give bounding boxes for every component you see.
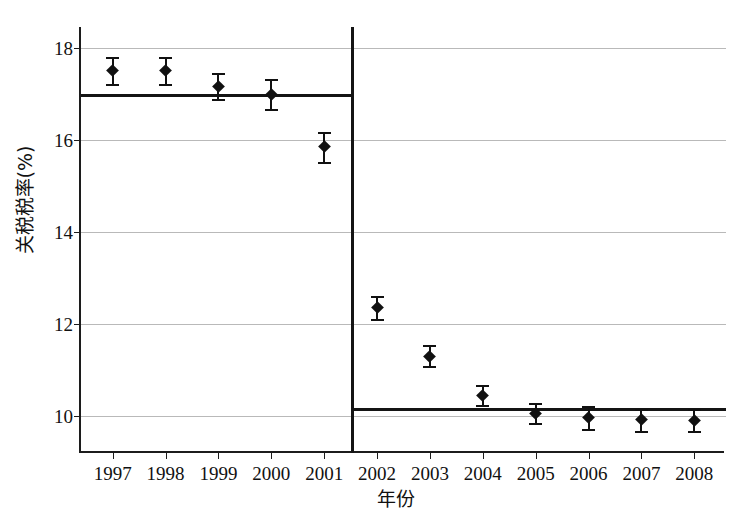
x-tick-mark [324, 451, 325, 459]
error-bar-cap-lower [688, 431, 701, 433]
error-bar-cap-upper [318, 132, 331, 134]
error-bar-cap-lower [106, 84, 119, 86]
error-bar-cap-lower [529, 423, 542, 425]
y-tick-label: 18 [31, 38, 73, 57]
gridline-10 [81, 416, 726, 417]
y-tick-label: 12 [31, 315, 73, 334]
gridline-12 [81, 324, 726, 325]
error-bar-cap-lower [318, 162, 331, 164]
diamond-marker [476, 389, 489, 402]
diamond-marker [212, 80, 225, 93]
discontinuity-cutoff [351, 27, 354, 453]
error-bar-cap-upper [371, 296, 384, 298]
x-tick-mark [166, 451, 167, 459]
diamond-marker [371, 302, 384, 315]
error-bar-cap-upper [212, 73, 225, 75]
x-tick-mark [113, 451, 114, 459]
y-tick-label: 16 [31, 130, 73, 149]
error-bar-cap-upper [582, 406, 595, 408]
gridline-16 [81, 140, 726, 141]
error-bar-cap-upper [159, 57, 172, 59]
diamond-marker [582, 411, 595, 424]
y-tick-mark [74, 232, 81, 233]
chart-figure: 关税税率(%) 年份 1816141210 199719981999200020… [0, 0, 742, 526]
error-bar-cap-lower [212, 99, 225, 101]
error-bar-cap-lower [635, 431, 648, 433]
error-bar-cap-upper [529, 403, 542, 405]
plot-area: 1816141210 19971998199920002001200220032… [79, 27, 724, 453]
y-tick-mark [74, 416, 81, 417]
error-bar-cap-lower [371, 319, 384, 321]
y-tick-label: 14 [31, 222, 73, 241]
x-tick-mark [377, 451, 378, 459]
x-axis-title: 年份 [0, 484, 742, 511]
y-tick-label: 10 [31, 407, 73, 426]
y-tick-mark [74, 48, 81, 49]
x-tick-mark [218, 451, 219, 459]
error-bar-cap-upper [688, 409, 701, 411]
x-tick-mark [694, 451, 695, 459]
x-tick-mark [483, 451, 484, 459]
diamond-marker [159, 64, 172, 77]
error-bar-cap-lower [582, 429, 595, 431]
error-bar-cap-lower [476, 405, 489, 407]
error-bar-cap-lower [159, 84, 172, 86]
error-bar-cap-upper [476, 385, 489, 387]
diamond-marker [106, 64, 119, 77]
x-tick-mark [536, 451, 537, 459]
x-tick-mark [589, 451, 590, 459]
gridline-14 [81, 232, 726, 233]
error-bar-cap-upper [106, 57, 119, 59]
error-bar-cap-upper [423, 345, 436, 347]
diamond-marker [318, 140, 331, 153]
error-bar-cap-upper [265, 79, 278, 81]
pre-period-fit-line [81, 94, 351, 97]
error-bar-cap-lower [423, 366, 436, 368]
error-bar-cap-lower [265, 109, 278, 111]
gridline-18 [81, 48, 726, 49]
diamond-marker [424, 350, 437, 363]
y-tick-mark [74, 140, 81, 141]
y-tick-mark [74, 324, 81, 325]
diamond-marker [265, 88, 278, 101]
x-tick-mark [641, 451, 642, 459]
error-bar-cap-upper [635, 409, 648, 411]
x-tick-label-2008: 2008 [659, 463, 729, 485]
x-tick-mark [430, 451, 431, 459]
x-tick-mark [271, 451, 272, 459]
